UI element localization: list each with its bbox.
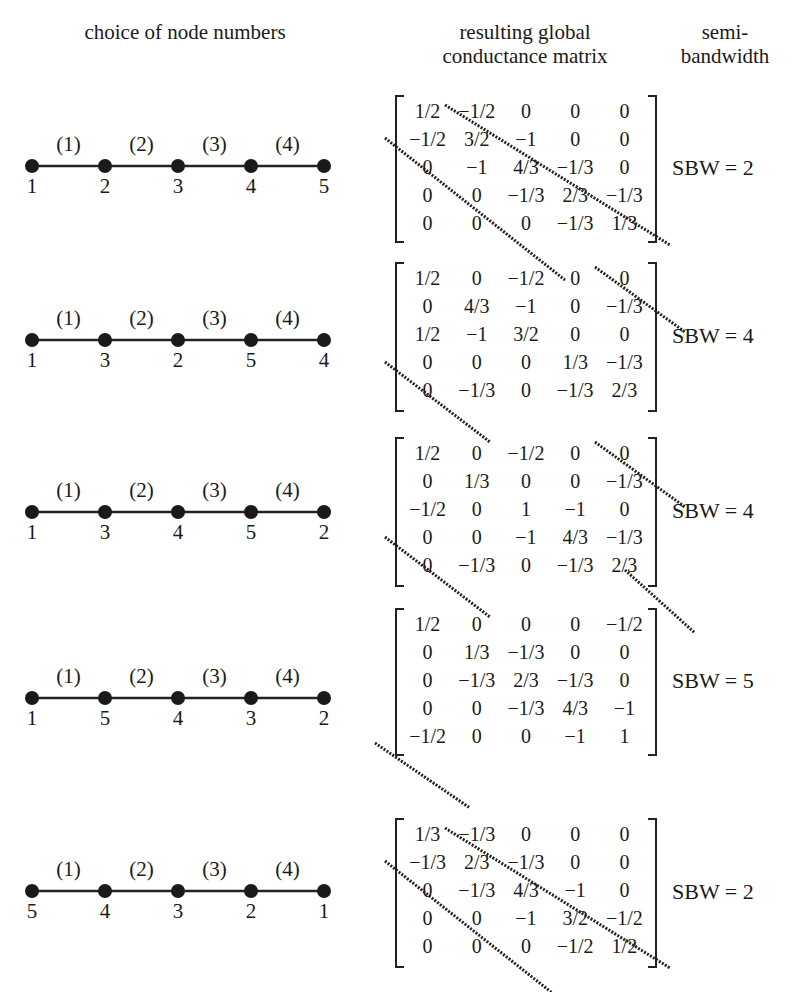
right-bracket xyxy=(648,608,657,756)
matrix-cell: 0 xyxy=(403,467,452,495)
element-label: (3) xyxy=(195,479,235,501)
matrix-cell: 0 xyxy=(551,610,600,638)
node-number: 4 xyxy=(85,900,125,922)
header-semi-bandwidth: semi-bandwidth xyxy=(660,20,790,68)
element-label: (2) xyxy=(122,479,162,501)
matrix-cell: −1/3 xyxy=(403,848,452,876)
matrix-cell: 0 xyxy=(452,181,501,209)
matrix-cell: −1/2 xyxy=(600,610,649,638)
matrix-cell: 0 xyxy=(501,932,550,960)
matrix-cell: 0 xyxy=(501,610,550,638)
matrix-cell: 0 xyxy=(403,932,452,960)
matrix-cell: −1/3 xyxy=(551,666,600,694)
node-number: 1 xyxy=(12,521,52,543)
matrix-cell: 1/2 xyxy=(403,610,452,638)
matrix-cell: −1/3 xyxy=(501,694,550,722)
node-graph: (1)(2)(3)(4)15432 xyxy=(0,658,370,738)
element-label: (1) xyxy=(49,665,89,687)
matrix-cell: 1/2 xyxy=(403,264,452,292)
matrix-cell: 0 xyxy=(600,876,649,904)
matrix-cell: 1/2 xyxy=(403,439,452,467)
element-label: (4) xyxy=(268,307,308,329)
matrix-cell: 0 xyxy=(551,848,600,876)
matrix-cell: 0 xyxy=(452,495,501,523)
node-number: 4 xyxy=(231,175,271,197)
conductance-matrix: 1/2000−1/201/3−1/3000−1/32/3−1/3000−1/34… xyxy=(395,608,657,756)
matrix-cell: 0 xyxy=(600,264,649,292)
matrix-cell: 0 xyxy=(452,610,501,638)
matrix-cell: −1 xyxy=(551,495,600,523)
matrix-cell: 2/3 xyxy=(452,848,501,876)
matrix-cell: 0 xyxy=(452,523,501,551)
matrix-cell: 0 xyxy=(551,638,600,666)
matrix-cell: −1/3 xyxy=(501,181,550,209)
matrix-cell: 0 xyxy=(403,376,452,404)
matrix-cell: 0 xyxy=(551,820,600,848)
matrix-cell: 0 xyxy=(403,153,452,181)
semi-bandwidth-value: SBW = 4 xyxy=(672,323,754,349)
matrix-cell: 0 xyxy=(600,848,649,876)
matrix-cell: 0 xyxy=(501,722,550,750)
right-bracket xyxy=(648,437,657,587)
matrix-cell: 4/3 xyxy=(501,153,550,181)
element-label: (4) xyxy=(268,858,308,880)
matrix-grid: 1/3−1/3000−1/32/3−1/3000−1/34/3−1000−13/… xyxy=(403,820,649,960)
node-number: 1 xyxy=(304,900,344,922)
matrix-cell: 0 xyxy=(600,495,649,523)
right-bracket xyxy=(648,95,657,243)
element-label: (3) xyxy=(195,133,235,155)
matrix-cell: 0 xyxy=(452,722,501,750)
matrix-cell: −1/3 xyxy=(501,638,550,666)
element-label: (1) xyxy=(49,133,89,155)
matrix-cell: 1/2 xyxy=(600,932,649,960)
conductance-matrix: 1/3−1/3000−1/32/3−1/3000−1/34/3−1000−13/… xyxy=(395,818,657,968)
matrix-cell: −1/3 xyxy=(551,209,600,237)
matrix-grid: 1/2000−1/201/3−1/3000−1/32/3−1/3000−1/34… xyxy=(403,610,649,750)
matrix-cell: −1/2 xyxy=(403,722,452,750)
conductance-matrix: 1/20−1/20001/300−1/3−1/201−1000−14/3−1/3… xyxy=(395,437,657,587)
matrix-cell: −1 xyxy=(551,722,600,750)
matrix-cell: 0 xyxy=(600,125,649,153)
node-number: 1 xyxy=(12,349,52,371)
matrix-cell: −1/2 xyxy=(551,932,600,960)
matrix-cell: 0 xyxy=(551,97,600,125)
semi-bandwidth-value: SBW = 2 xyxy=(672,879,754,905)
matrix-cell: 0 xyxy=(403,876,452,904)
matrix-cell: 1/2 xyxy=(403,320,452,348)
node-number: 2 xyxy=(304,521,344,543)
matrix-cell: 0 xyxy=(403,348,452,376)
node-number: 2 xyxy=(158,349,198,371)
node-number: 2 xyxy=(304,707,344,729)
matrix-cell: −1/3 xyxy=(600,292,649,320)
matrix-cell: 3/2 xyxy=(551,904,600,932)
node-number: 3 xyxy=(158,900,198,922)
matrix-cell: 0 xyxy=(551,292,600,320)
matrix-cell: 4/3 xyxy=(551,694,600,722)
matrix-cell: −1/3 xyxy=(501,848,550,876)
matrix-cell: 0 xyxy=(600,638,649,666)
matrix-cell: 0 xyxy=(551,467,600,495)
matrix-cell: 4/3 xyxy=(551,523,600,551)
node-number: 5 xyxy=(231,349,271,371)
matrix-cell: 0 xyxy=(600,439,649,467)
matrix-cell: 1/3 xyxy=(551,348,600,376)
matrix-cell: 0 xyxy=(452,264,501,292)
node-number: 3 xyxy=(85,349,125,371)
node-graph: (1)(2)(3)(4)54321 xyxy=(0,851,370,931)
node-number: 5 xyxy=(231,521,271,543)
node-number: 1 xyxy=(12,175,52,197)
matrix-cell: 0 xyxy=(452,932,501,960)
matrix-cell: −1/3 xyxy=(452,820,501,848)
semi-bandwidth-value: SBW = 4 xyxy=(672,498,754,524)
matrix-cell: 0 xyxy=(551,264,600,292)
element-label: (4) xyxy=(268,665,308,687)
matrix-cell: 0 xyxy=(501,551,550,579)
matrix-cell: −1/3 xyxy=(600,467,649,495)
node-graph: (1)(2)(3)(4)13452 xyxy=(0,472,370,552)
header-node-numbers: choice of node numbers xyxy=(60,20,310,44)
matrix-cell: 2/3 xyxy=(551,181,600,209)
element-label: (2) xyxy=(122,133,162,155)
matrix-cell: 0 xyxy=(501,820,550,848)
matrix-cell: 0 xyxy=(501,376,550,404)
matrix-cell: 0 xyxy=(551,439,600,467)
